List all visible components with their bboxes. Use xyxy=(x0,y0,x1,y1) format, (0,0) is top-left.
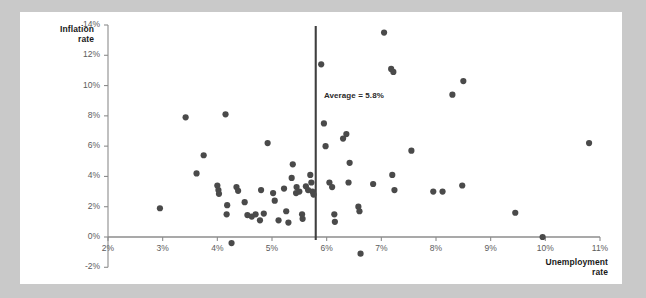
scatter-plot: Inflation rate Unemployment rate -2%0%2%… xyxy=(20,12,622,284)
y-tick-label: 12% xyxy=(70,50,100,59)
x-tick-label: 2% xyxy=(94,244,122,253)
x-tick-label: 7% xyxy=(367,244,395,253)
x-tick-label: 3% xyxy=(149,244,177,253)
x-tick-label: 8% xyxy=(422,244,450,253)
x-tick-label: 11% xyxy=(586,244,614,253)
x-tick-label: 9% xyxy=(477,244,505,253)
y-tick-label: 8% xyxy=(70,111,100,120)
average-annotation: Average = 5.8% xyxy=(324,91,384,100)
x-tick-label: 10% xyxy=(531,244,559,253)
y-tick-label: 0% xyxy=(70,232,100,241)
x-tick-label: 6% xyxy=(313,244,341,253)
y-tick-label: 14% xyxy=(70,20,100,29)
screenshot-frame: Inflation rate Unemployment rate -2%0%2%… xyxy=(0,0,646,298)
x-tick-label: 5% xyxy=(258,244,286,253)
y-tick-label: -2% xyxy=(70,262,100,271)
chart-card: Inflation rate Unemployment rate -2%0%2%… xyxy=(20,12,622,284)
y-tick-label: 10% xyxy=(70,81,100,90)
y-tick-label: 6% xyxy=(70,141,100,150)
y-tick-label: 4% xyxy=(70,171,100,180)
y-tick-label: 2% xyxy=(70,202,100,211)
x-tick-label: 4% xyxy=(203,244,231,253)
